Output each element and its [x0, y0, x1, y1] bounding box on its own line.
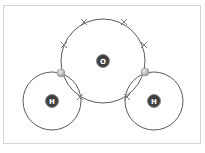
hydrogen-right-nucleus: H [148, 95, 161, 108]
shared-electron-dot-left [57, 69, 65, 77]
cross-icon [61, 42, 67, 48]
shared-electron-dot-right [141, 68, 149, 76]
hydrogen-right-label: H [151, 98, 157, 106]
hydrogen-left-nucleus: H [46, 95, 59, 108]
water-molecule-diagram: O H H [0, 0, 205, 153]
hydrogen-left-label: H [49, 98, 55, 106]
oxygen-nucleus: O [97, 55, 110, 68]
oxygen-label: O [100, 58, 106, 66]
